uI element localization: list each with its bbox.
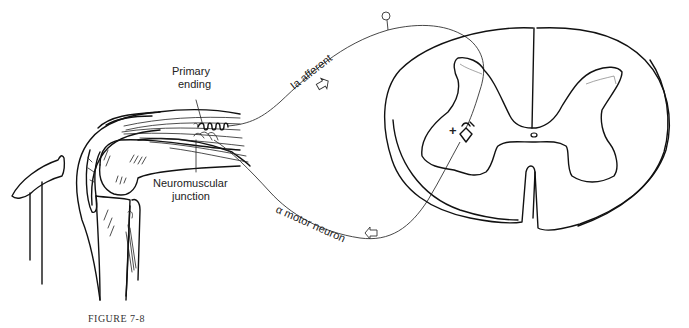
stretch-reflex-diagram: + Primary ending Neuromuscular junction … xyxy=(0,0,689,328)
nmj-label-1: Neuromuscular xyxy=(153,177,228,189)
drg-stalk xyxy=(387,20,388,30)
reflex-hammer xyxy=(12,156,64,284)
nmj-label-2: junction xyxy=(171,190,210,202)
afferent-terminal xyxy=(462,123,470,126)
efferent-direction-arrow xyxy=(365,227,377,239)
central-canal xyxy=(531,133,537,137)
quadriceps-muscle xyxy=(98,110,250,166)
motor-neuron-soma xyxy=(460,128,472,142)
excitatory-sign: + xyxy=(449,123,457,138)
ia-afferent-fiber xyxy=(228,25,484,128)
spinal-cord-cross-section xyxy=(385,28,670,230)
primary-ending-label-2: ending xyxy=(178,78,211,90)
alpha-motor-neuron-label: α motor neuron xyxy=(274,203,347,244)
primary-ending-leader xyxy=(196,100,202,122)
dorsal-root-ganglion-cell xyxy=(382,12,390,20)
knee-joint-drawing xyxy=(77,112,240,300)
alpha-motor-neuron-fiber xyxy=(214,140,460,239)
primary-ending-label-1: Primary xyxy=(172,65,210,77)
figure-caption: FIGURE 7-8 xyxy=(88,313,145,324)
afferent-direction-arrow xyxy=(315,76,331,92)
